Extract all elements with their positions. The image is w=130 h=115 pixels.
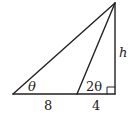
angle-theta-label: θ (28, 79, 36, 94)
height-h-label: h (119, 45, 127, 60)
segment-4-label: 4 (92, 98, 100, 113)
angle-2theta-label: 2θ (86, 79, 102, 94)
triangle-diagram: θ 2θ 8 4 h (0, 0, 130, 115)
angle-2theta-text: 2θ (86, 79, 102, 94)
right-angle-marker (107, 87, 115, 94)
segment-8-label: 8 (44, 98, 52, 113)
